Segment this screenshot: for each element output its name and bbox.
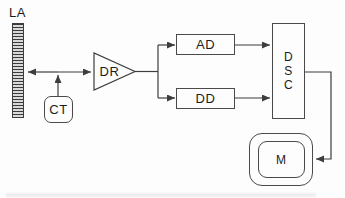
ad-node-label: AD: [196, 37, 215, 52]
dsc-letter-s: S: [284, 64, 293, 78]
dr-node-label: DR: [95, 64, 124, 79]
dd-node-label: DD: [196, 91, 216, 106]
block-diagram: LA CT DR AD DD D S C M: [0, 0, 345, 198]
ct-node: CT: [44, 96, 73, 123]
la-node-label: LA: [9, 5, 26, 20]
monitor-node: M: [249, 133, 313, 186]
ct-node-label: CT: [49, 102, 67, 117]
dsc-letter-c: C: [284, 78, 293, 92]
scan-artifact: [6, 193, 316, 197]
dsc-letter-d: D: [284, 50, 293, 64]
transducer-array-bar: [12, 23, 24, 118]
dsc-node: D S C: [272, 23, 305, 119]
monitor-screen: M: [258, 141, 305, 178]
monitor-label: M: [276, 153, 286, 167]
dd-node: DD: [176, 88, 235, 109]
ad-node: AD: [176, 34, 235, 55]
